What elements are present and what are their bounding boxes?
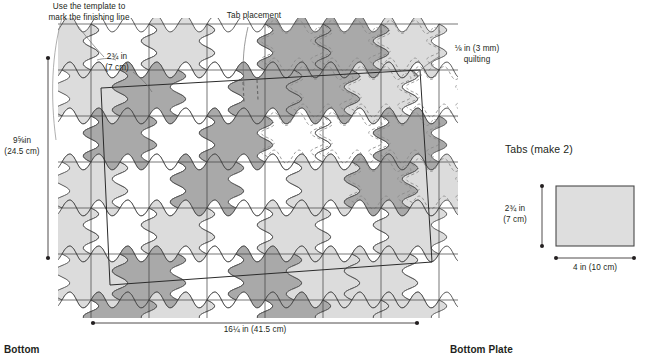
bottom-width-dimension-label: 16¼ in (41.5 cm)	[195, 325, 315, 336]
caption-bottom-plate: Bottom Plate	[450, 344, 513, 355]
height-dimension-tab	[540, 184, 544, 248]
width-dimension-tab	[554, 256, 636, 260]
tab-width-dimension-label: 4 in (10 cm)	[540, 263, 650, 274]
tab-height-dimension-label: 2¾ in (7 cm)	[492, 204, 538, 225]
patch-size-label: 2¾ in (7 cm)	[92, 52, 142, 73]
tab-placement-label: Tab placement	[208, 11, 300, 22]
leader-tab-placement	[243, 27, 248, 86]
figure-canvas: Use the template to mark the finishing l…	[0, 0, 651, 360]
bottom-height-dimension-label: 9⅝in (24.5 cm)	[0, 136, 44, 157]
height-dimension-bottom	[46, 56, 50, 260]
template-note-label: Use the template to mark the finishing l…	[22, 2, 156, 23]
tab-rectangle	[556, 186, 634, 246]
quilting-label: ⅛ in (3 mm) quilting	[434, 44, 520, 65]
caption-bottom: Bottom	[4, 344, 40, 355]
tabs-panel-title: Tabs (make 2)	[505, 143, 573, 155]
